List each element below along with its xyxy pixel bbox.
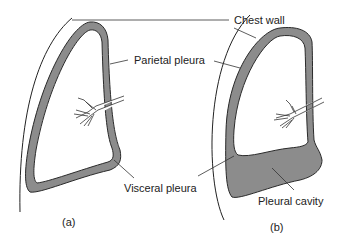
pleura-diagram: Chest wall Parietal pleura Visceral pleu…	[0, 0, 338, 243]
leader-visceral-a	[114, 160, 134, 178]
panel-b	[198, 15, 324, 220]
lung-b	[234, 36, 308, 156]
label-panel-b: (b)	[270, 221, 283, 233]
leader-parietal-a	[110, 60, 128, 64]
label-visceral-pleura: Visceral pleura	[124, 182, 197, 194]
leader-parietal-b	[214, 61, 240, 68]
leader-chest-wall-b	[234, 28, 256, 38]
label-pleural-cavity: Pleural cavity	[258, 195, 324, 207]
label-parietal-pleura: Parietal pleura	[134, 54, 206, 66]
label-chest-wall: Chest wall	[234, 14, 285, 26]
label-panel-a: (a)	[62, 216, 75, 228]
